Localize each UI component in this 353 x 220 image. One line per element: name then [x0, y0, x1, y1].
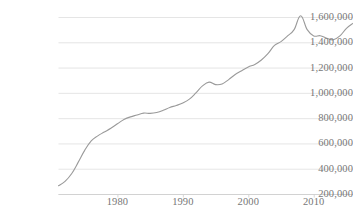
x-tick-label-2010: 2010: [294, 196, 334, 207]
line-chart: 200,000400,000600,000800,0001,000,0001,2…: [0, 0, 353, 220]
x-tick-label-2000: 2000: [228, 196, 268, 207]
x-tick-label-1990: 1990: [163, 196, 203, 207]
x-axis-tick-labels: 1980199020002010: [0, 0, 353, 220]
x-tick-label-1980: 1980: [97, 196, 137, 207]
